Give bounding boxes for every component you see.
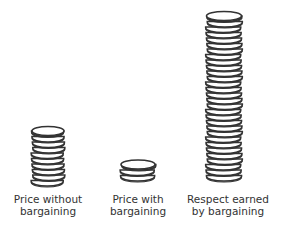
coin-stack-0 [31,127,65,188]
label-line: by bargaining [187,205,269,217]
coin-stack-2 [206,12,243,183]
label-line: Respect earned [187,193,269,205]
label-respect-earned: Respect earned by bargaining [187,193,269,217]
label-price-without-bargaining: Price without bargaining [14,193,82,217]
label-price-with-bargaining: Price with bargaining [110,193,166,217]
label-line: bargaining [14,205,82,217]
label-line: Price without [14,193,82,205]
label-line: Price with [110,193,166,205]
label-line: bargaining [110,205,166,217]
coin-stack-1 [120,160,156,182]
